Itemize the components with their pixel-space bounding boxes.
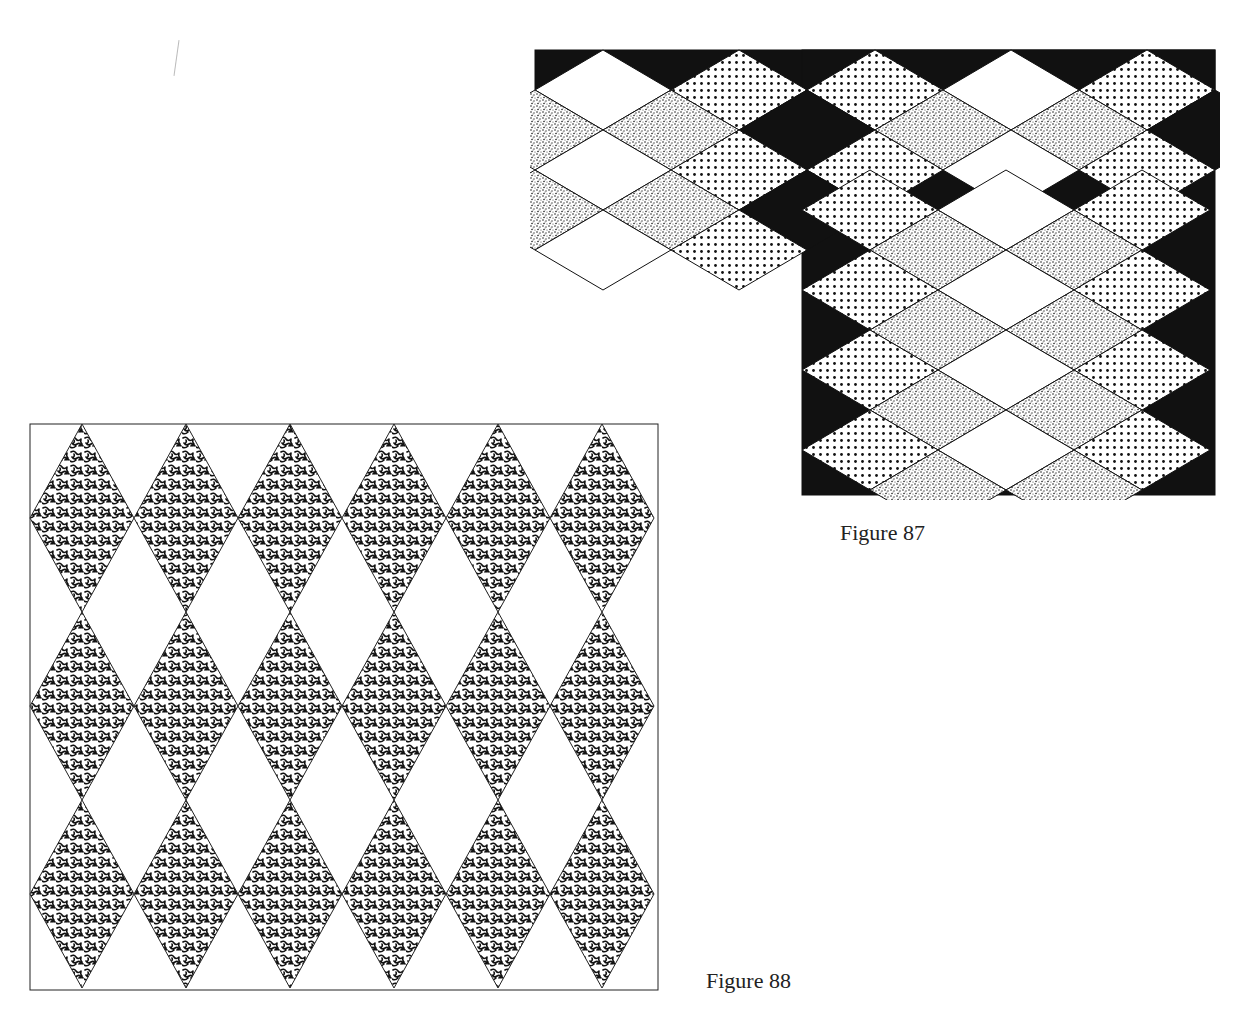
figure-88-caption: Figure 88 <box>706 968 791 994</box>
stray-mark <box>173 40 179 76</box>
figure-87-caption: Figure 87 <box>840 520 925 546</box>
figure-88-labyrinth-diamonds <box>28 422 663 994</box>
